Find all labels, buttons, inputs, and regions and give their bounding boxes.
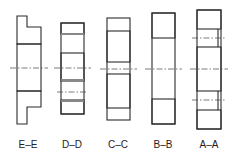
label-b-b: B–B bbox=[154, 139, 173, 150]
label-a-a: A–A bbox=[200, 139, 219, 150]
section-d-d bbox=[54, 23, 91, 114]
section-e-e bbox=[10, 16, 48, 124]
section-b-b bbox=[145, 13, 182, 124]
label-e-e: E–E bbox=[19, 139, 38, 150]
section-c-c bbox=[100, 18, 137, 120]
label-c-c: C–C bbox=[108, 139, 128, 150]
label-d-d: D–D bbox=[62, 139, 82, 150]
section-a-a bbox=[190, 10, 228, 129]
section-views-drawing: E–E D–D C–C B–B A–A bbox=[0, 0, 236, 159]
